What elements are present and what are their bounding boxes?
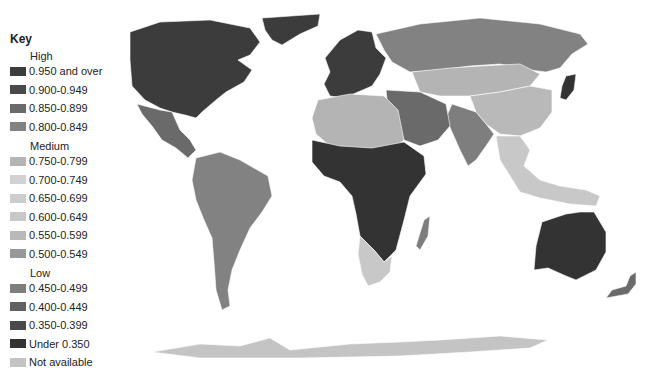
legend-label: 0.700-0.749 [29,174,88,186]
legend-label: Under 0.350 [29,338,90,350]
region-greenland [262,14,320,45]
region-madagascar [416,216,430,250]
region-europe [324,30,386,98]
legend-label: 0.400-0.449 [29,301,88,313]
legend-swatch [10,358,26,367]
legend-swatch [10,67,26,76]
legend-swatch [10,175,26,184]
legend-label: 0.450-0.499 [29,282,88,294]
legend-swatch [10,122,26,131]
legend-item: Not available [10,353,135,371]
legend-item: 0.900-0.949 [10,81,135,100]
legend-swatch [10,157,26,166]
legend-item: Under 0.350 [10,335,135,354]
region-sub-saharan-africa [312,140,426,262]
legend-swatch [10,302,26,311]
legend-swatch [10,231,26,240]
legend-group-medium: Medium [30,140,135,152]
region-japan [560,74,576,100]
legend-swatch [10,85,26,94]
legend-label: 0.600-0.649 [29,211,88,223]
legend-label: Not available [29,356,93,368]
legend-label: 0.900-0.949 [29,84,88,96]
legend-swatch [10,212,26,221]
region-south-america [192,152,272,310]
legend-item: 0.800-0.849 [10,118,135,137]
region-southeast-asia [496,136,600,206]
legend-item: 0.850-0.899 [10,99,135,118]
legend-label: 0.850-0.899 [29,102,88,114]
legend-swatch [10,321,26,330]
region-antarctica [152,336,548,358]
legend-group-high: High [30,50,135,62]
legend-label: 0.750-0.799 [29,155,88,167]
legend-label: 0.500-0.549 [29,248,88,260]
legend-swatch [10,194,26,203]
legend-swatch [10,284,26,293]
legend-item: 0.650-0.699 [10,189,135,208]
legend-label: 0.650-0.699 [29,192,88,204]
legend-item: 0.950 and over [10,62,135,81]
legend-label: 0.550-0.599 [29,229,88,241]
region-new-zealand [606,272,636,298]
region-north-america [130,20,260,118]
legend-item: 0.600-0.649 [10,208,135,227]
legend-title: Key [10,32,135,46]
legend-label: 0.950 and over [29,65,102,77]
legend-item: 0.750-0.799 [10,152,135,171]
region-russia [376,18,588,72]
legend-swatch [10,339,26,348]
legend-item: 0.700-0.749 [10,171,135,190]
legend-item: 0.400-0.449 [10,298,135,317]
legend-item: 0.500-0.549 [10,245,135,264]
legend-label: 0.800-0.849 [29,121,88,133]
legend-swatch [10,104,26,113]
region-australia [534,212,606,280]
legend-item: 0.450-0.499 [10,279,135,298]
legend-item: 0.350-0.399 [10,316,135,335]
legend-swatch [10,249,26,258]
region-north-africa [312,94,404,150]
map-legend: Key High 0.950 and over 0.900-0.949 0.85… [10,32,135,371]
legend-item: 0.550-0.599 [10,226,135,245]
legend-group-low: Low [30,267,135,279]
legend-label: 0.350-0.399 [29,319,88,331]
